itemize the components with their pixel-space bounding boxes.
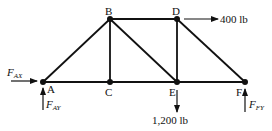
reaction-FFY: FFY	[245, 89, 265, 112]
label-B: B	[105, 5, 112, 17]
joint-A	[40, 79, 46, 85]
member-DF	[177, 19, 245, 82]
reaction-FFY-label: FFY	[248, 98, 265, 112]
load-1200-label: 1,200 lb	[152, 114, 189, 126]
truss-svg: A B C D E F 400 lb 1,200 lb FAX FAY FFY	[0, 0, 272, 131]
load-400-label: 400 lb	[220, 13, 248, 25]
label-C: C	[105, 86, 112, 98]
joint-E	[174, 79, 180, 85]
reaction-FAX: FAX	[6, 66, 37, 81]
truss-diagram: A B C D E F 400 lb 1,200 lb FAX FAY FFY	[0, 0, 272, 131]
reaction-FAY-label: FAY	[45, 98, 62, 112]
member-BE	[110, 19, 177, 82]
label-A: A	[47, 83, 55, 95]
label-D: D	[172, 5, 180, 17]
joint-F	[242, 79, 248, 85]
joint-C	[107, 79, 113, 85]
label-F: F	[236, 86, 242, 98]
label-E: E	[169, 86, 176, 98]
truss-members	[43, 19, 245, 82]
member-AB	[43, 19, 110, 82]
reaction-FAX-label: FAX	[6, 66, 23, 80]
load-D-horizontal: 400 lb	[184, 13, 248, 25]
